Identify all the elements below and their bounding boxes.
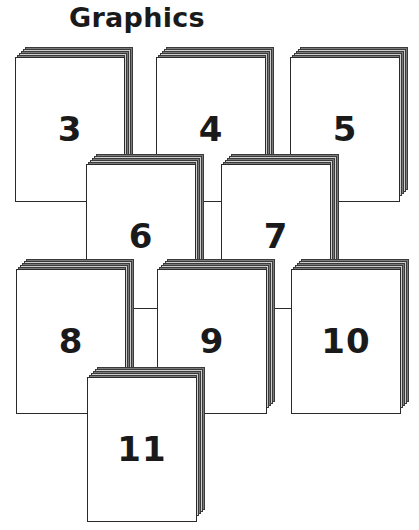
page-number: 4 — [199, 109, 224, 149]
page-number: 10 — [321, 321, 370, 361]
page-number: 7 — [264, 216, 289, 256]
page-number: 5 — [333, 109, 358, 149]
diagram-title: Graphics — [69, 0, 205, 36]
page-number: 9 — [200, 321, 225, 361]
page-number: 11 — [117, 429, 166, 469]
page-front: 11 — [87, 377, 197, 522]
page-number: 6 — [129, 216, 154, 256]
page-number: 3 — [58, 109, 83, 149]
page-stack-10: 10 — [291, 259, 411, 415]
page-front: 10 — [291, 269, 401, 414]
page-stack-11: 11 — [87, 367, 207, 523]
page-number: 8 — [59, 321, 84, 361]
